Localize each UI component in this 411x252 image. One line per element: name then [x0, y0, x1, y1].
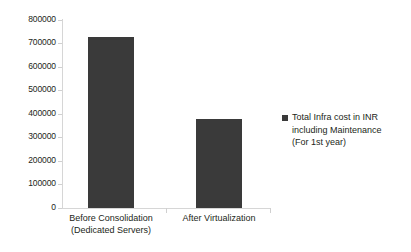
y-tick-label-group: 500000	[6, 85, 56, 94]
legend-item-label: Total Infra cost in INR including Mainte…	[292, 111, 382, 149]
y-tick-label: 0	[8, 203, 56, 212]
bar-chart: 800000 700000 600000 500000 400000 30000…	[0, 0, 411, 252]
y-tick-label: 800000	[8, 15, 56, 24]
square-marker-icon	[282, 115, 288, 121]
y-tick-label: 100000	[8, 179, 56, 188]
bar-after-virtualization	[196, 119, 242, 208]
x-axis-label-line: After Virtualization	[167, 212, 271, 224]
y-tick-label: 500000	[8, 85, 56, 94]
legend-label-line: Total Infra cost in INR	[292, 111, 382, 124]
legend-label-line: (For 1st year)	[292, 136, 382, 149]
y-tick-label: 200000	[8, 156, 56, 165]
x-axis-label-before-consolidation: Before Consolidation (Dedicated Servers)	[56, 212, 166, 236]
y-tick-label-group: 800000	[6, 15, 56, 24]
y-tick-label: 600000	[8, 62, 56, 71]
bar-before-consolidation	[88, 37, 134, 208]
y-tick-label-group: 400000	[6, 109, 56, 118]
y-tick-label: 300000	[8, 132, 56, 141]
x-axis-label-line: Before Consolidation	[56, 212, 166, 224]
y-tick-label-group: 100000	[6, 179, 56, 188]
legend-label-line: including Maintenance	[292, 124, 382, 137]
y-tick-label-group: 200000	[6, 156, 56, 165]
y-tick-label-group: 600000	[6, 62, 56, 71]
y-tick-label: 400000	[8, 109, 56, 118]
y-tick-label-group: 700000	[6, 38, 56, 47]
y-axis-line	[62, 19, 63, 209]
y-tick-label-group: 300000	[6, 132, 56, 141]
legend: Total Infra cost in INR including Mainte…	[282, 111, 408, 149]
y-tick-label: 700000	[8, 38, 56, 47]
x-axis-label-line: (Dedicated Servers)	[56, 224, 166, 236]
x-axis-label-after-virtualization: After Virtualization	[167, 212, 271, 224]
y-tick-label-group: 0	[6, 203, 56, 212]
